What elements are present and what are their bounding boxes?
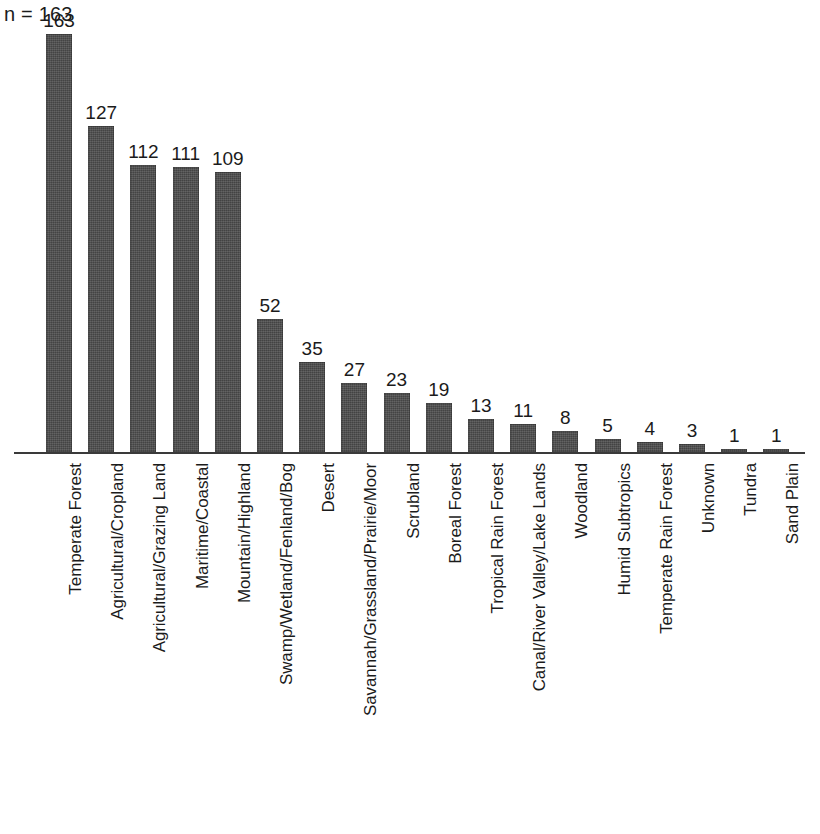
- category-label: Agricultural/Cropland: [109, 463, 126, 620]
- bar: [130, 165, 156, 452]
- bar-value-label: 127: [71, 102, 131, 124]
- bar: [46, 34, 72, 452]
- category-label: Scrubland: [405, 463, 422, 539]
- category-label: Temperate Rain Forest: [658, 463, 675, 634]
- bar-value-label: 163: [29, 10, 89, 32]
- bar: [173, 167, 199, 452]
- category-label: Humid Subtropics: [616, 463, 633, 596]
- bar: [384, 393, 410, 452]
- bar: [552, 431, 578, 452]
- category-label: Woodland: [573, 463, 590, 538]
- category-label: Sand Plain: [784, 463, 801, 544]
- bar: [595, 439, 621, 452]
- category-label: Desert: [320, 463, 337, 512]
- bar-value-label: 52: [240, 295, 300, 317]
- category-label: Tropical Rain Forest: [489, 463, 506, 613]
- bar: [88, 126, 114, 452]
- plot-area: 16312711211110952352723191311854311: [0, 0, 820, 455]
- bar-value-label: 35: [282, 338, 342, 360]
- bar: [426, 403, 452, 452]
- bar-chart: n = 163 16312711211110952352723191311854…: [0, 0, 820, 834]
- category-label: Maritime/Coastal: [194, 463, 211, 589]
- category-label: Agricultural/Grazing Land: [151, 463, 168, 652]
- bar: [341, 383, 367, 452]
- bar-value-label: 109: [198, 148, 258, 170]
- category-label: Canal/River Valley/Lake Lands: [531, 463, 548, 691]
- category-label: Swamp/Wetland/Fenland/Bog: [278, 463, 295, 685]
- bar: [215, 172, 241, 452]
- category-label: Tundra: [742, 463, 759, 516]
- category-labels-layer: Temperate ForestAgricultural/CroplandAgr…: [0, 455, 820, 834]
- category-label: Unknown: [700, 463, 717, 533]
- bar: [257, 319, 283, 452]
- category-label: Boreal Forest: [447, 463, 464, 564]
- bar: [637, 442, 663, 452]
- bar: [468, 419, 494, 452]
- category-label: Temperate Forest: [67, 463, 84, 595]
- category-label: Savannah/Grassland/Prairie/Moor: [362, 463, 379, 716]
- bar-value-label: 1: [746, 425, 806, 447]
- x-axis-line: [14, 452, 805, 454]
- bar: [510, 424, 536, 452]
- category-label: Mountain/Highland: [236, 463, 253, 603]
- bar: [679, 444, 705, 452]
- bar: [299, 362, 325, 452]
